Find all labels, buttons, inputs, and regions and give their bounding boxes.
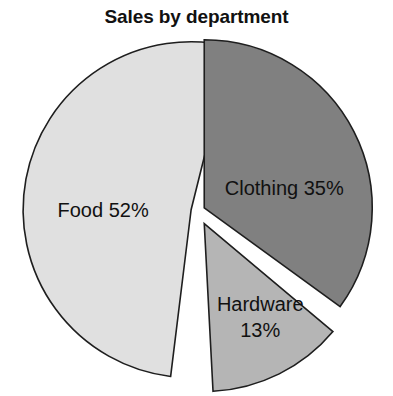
pie-slice-label-hardware: Hardware	[217, 293, 304, 315]
pie-slice-label-clothing: Clothing 35%	[225, 177, 344, 199]
pie-chart: Sales by department Food 52%Clothing 35%…	[0, 0, 393, 396]
pie-slice-label-hardware: 13%	[240, 319, 280, 341]
pie-svg: Food 52%Clothing 35%Hardware13%	[0, 0, 393, 396]
pie-slice-label-food: Food 52%	[58, 199, 149, 221]
